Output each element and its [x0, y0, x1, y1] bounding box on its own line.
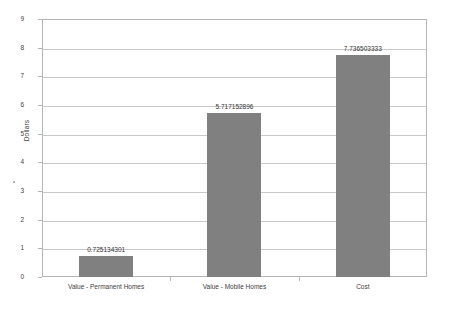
bar-value-label: 5.717152896 — [216, 104, 254, 111]
x-axis-labels: Value - Permanent HomesValue - Mobile Ho… — [42, 283, 427, 297]
x-tick-label: Cost — [299, 283, 427, 290]
y-tick-label: 8 — [2, 45, 24, 52]
bar-chart: Dollars 0123456789 0.7251343015.71715289… — [0, 0, 449, 310]
x-tick-label: Value - Permanent Homes — [42, 283, 170, 290]
bar-slot: 5.717152896 — [170, 19, 298, 277]
bar-slot: 7.736503333 — [299, 19, 427, 277]
y-tick-label: 5 — [2, 131, 24, 138]
y-tick-label: 2 — [2, 217, 24, 224]
bar-slot: 0.725134301 — [42, 19, 170, 277]
x-tick-mark — [170, 277, 171, 281]
y-tick-label: 7 — [2, 73, 24, 80]
bar-value-label: 0.725134301 — [87, 247, 125, 254]
image-speck-artifact — [13, 181, 15, 183]
bar-value-label: 7.736503333 — [344, 46, 382, 53]
bar — [79, 256, 133, 277]
y-tick-label: 3 — [2, 188, 24, 195]
y-tick-label: 6 — [2, 102, 24, 109]
y-tick-label: 4 — [2, 159, 24, 166]
bar — [207, 113, 261, 277]
x-tick-mark — [299, 277, 300, 281]
y-tick-label: 9 — [2, 16, 24, 23]
x-tick-label: Value - Mobile Homes — [170, 283, 298, 290]
y-tick-label: 0 — [2, 274, 24, 281]
y-tick-mark — [38, 277, 42, 278]
bars-group: 0.7251343015.7171528967.736503333 — [42, 19, 427, 277]
y-tick-label: 1 — [2, 245, 24, 252]
bar — [336, 55, 390, 277]
